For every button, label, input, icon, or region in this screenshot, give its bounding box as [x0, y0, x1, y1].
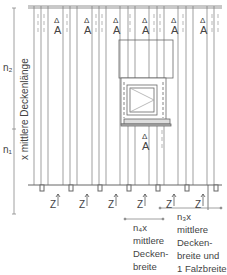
a-marker: A: [54, 24, 61, 36]
a-marker: A: [142, 140, 149, 152]
a-marker: A: [113, 24, 120, 36]
n1-label: n₁: [3, 144, 12, 156]
deck-length-label: x mittlere Deckenlänge: [19, 58, 30, 160]
n3-width-note: n₃x mittlere Decken- breite und 1 Falzbr…: [177, 210, 227, 275]
z-label: Z: [108, 199, 114, 211]
z-label: Z: [79, 199, 85, 211]
n2-label: n₂: [3, 62, 12, 74]
n4-width-note: n₄x mittlere Decken- breite: [133, 221, 168, 273]
a-marker: A: [142, 24, 149, 36]
a-marker: A: [200, 24, 207, 36]
roof-window: [119, 40, 173, 126]
z-label: Z: [166, 199, 172, 211]
left-dimension-line: [12, 8, 16, 214]
a-marker: A: [84, 24, 91, 36]
a-marker: A: [171, 24, 178, 36]
z-label: Z: [137, 199, 143, 211]
eave: [28, 185, 222, 191]
z-label: Z: [50, 199, 56, 211]
